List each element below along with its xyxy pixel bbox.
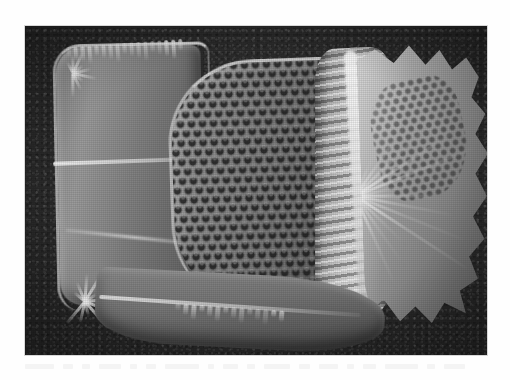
distal-flange [356,40,487,328]
page-canvas [0,0,510,380]
spine-cluster-top-left [61,52,105,100]
flange-radiating-spines [356,97,487,292]
caption-ghost-marks [25,362,465,371]
specimen-body [25,26,487,355]
sem-micrograph-plate [25,26,487,355]
